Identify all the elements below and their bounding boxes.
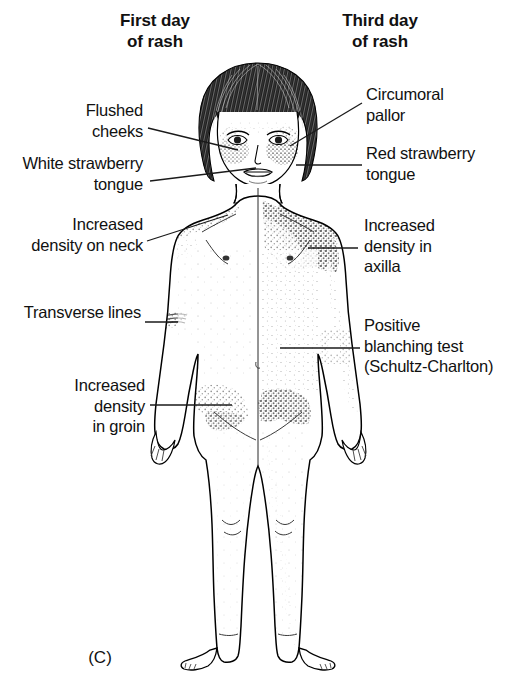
label-increased-density-groin: Increased density in groin [0,375,145,437]
label-circumoral-pallor: Circumoral pallor [366,84,516,125]
label-flushed-cheeks: Flushed cheeks [0,100,143,141]
label-red-strawberry-tongue: Red strawberry tongue [366,143,516,184]
figure-caption: (C) [70,648,130,668]
label-white-strawberry-tongue: White strawberry tongue [0,153,143,194]
label-positive-blanching-test: Positive blanching test (Schultz-Charlto… [364,315,516,377]
scarlet-fever-rash-diagram: First day of rash Third day of rash [0,0,516,683]
label-increased-density-neck: Increased density on neck [0,214,143,255]
label-increased-density-axilla: Increased density in axilla [364,215,516,277]
label-transverse-lines: Transverse lines [0,302,141,323]
